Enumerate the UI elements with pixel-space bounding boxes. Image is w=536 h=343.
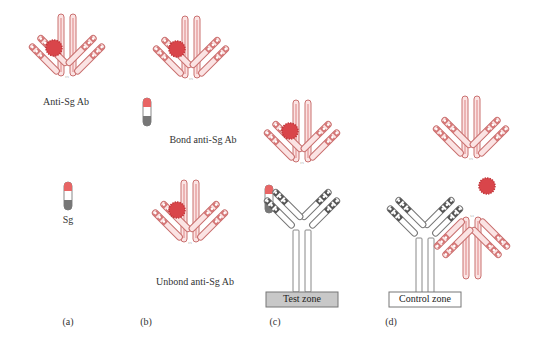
figure: s-s (0, 0, 536, 343)
control-zone-label: Control zone (389, 292, 461, 307)
panel-label-b: (b) (140, 316, 152, 328)
unbond-antibody-caption: Unbond anti-Sg Ab (156, 276, 234, 288)
test-zone-sandwich-icon (263, 100, 341, 307)
control-zone-icon (386, 96, 511, 307)
panel-label-a: (a) (62, 316, 73, 328)
sg-caption: Sg (63, 214, 74, 226)
anti-sg-antibody-caption: Anti-Sg Ab (43, 96, 89, 108)
unbond-antibody-icon (151, 180, 229, 245)
panel-label-d: (d) (385, 316, 397, 328)
sg-antigen-icon (64, 182, 72, 210)
anti-sg-antibody-icon (28, 14, 106, 79)
bond-antibody-caption: Bond anti-Sg Ab (169, 134, 236, 146)
bond-antibody-icon (143, 16, 230, 126)
test-zone-label: Test zone (266, 292, 338, 307)
panel-label-c: (c) (269, 316, 280, 328)
